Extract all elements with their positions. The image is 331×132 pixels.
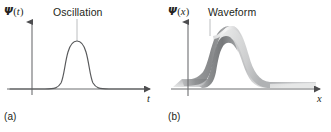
oscillation-callout-label: Oscillation bbox=[53, 6, 103, 18]
psi-symbol-a: Ψ bbox=[4, 5, 13, 17]
x-axis-label-b: x bbox=[317, 93, 322, 104]
y-axis-label-b: Ψ(x) bbox=[168, 5, 189, 17]
waveform-surface bbox=[173, 26, 316, 88]
panel-caption-a: (a) bbox=[4, 111, 17, 122]
x-axis-label-a: t bbox=[147, 93, 150, 104]
panel-b-waveform: Ψ(x) Waveform x (b) bbox=[166, 0, 331, 132]
y-axis-label-a: Ψ(t) bbox=[4, 5, 24, 17]
wave-packet-figure: Ψ(t) Oscillation t (a) bbox=[0, 0, 331, 132]
panel-a-plot bbox=[0, 0, 165, 132]
panel-caption-b: (b) bbox=[168, 111, 181, 122]
panel-b-plot bbox=[166, 0, 331, 132]
psi-symbol-b: Ψ bbox=[168, 5, 177, 17]
panel-a-oscillation: Ψ(t) Oscillation t (a) bbox=[0, 0, 165, 132]
oscillation-pulse-curve bbox=[10, 41, 145, 89]
close-paren-a: ) bbox=[20, 6, 24, 17]
waveform-callout-label: Waveform bbox=[208, 6, 256, 18]
close-paren-b: ) bbox=[186, 6, 190, 17]
